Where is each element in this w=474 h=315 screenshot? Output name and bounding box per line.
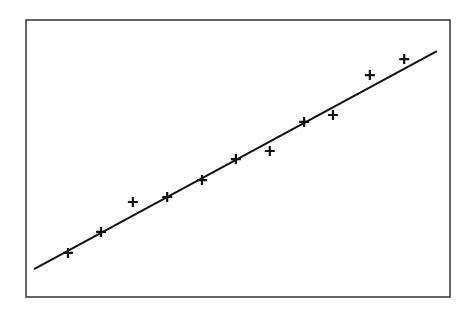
data-point-plus-marker bbox=[365, 70, 375, 80]
data-point-plus-marker bbox=[328, 110, 338, 120]
data-point-plus-marker bbox=[265, 146, 275, 156]
plot-layer bbox=[34, 51, 437, 269]
data-point-plus-marker bbox=[162, 192, 172, 202]
data-point-plus-marker bbox=[128, 197, 138, 207]
scatter-chart bbox=[0, 0, 474, 315]
data-point-plus-marker bbox=[399, 54, 409, 64]
